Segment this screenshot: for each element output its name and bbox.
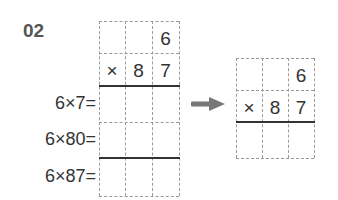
answer-cell[interactable] — [288, 122, 314, 158]
multiplier-tens-digit: 8 — [262, 90, 288, 122]
multiplicand-digit: 6 — [288, 58, 314, 90]
multiplier-ones-digit: 7 — [288, 90, 314, 122]
answer-cell[interactable] — [262, 122, 288, 158]
grid-line — [236, 158, 314, 159]
times-sign: × — [236, 90, 262, 122]
grid-cell — [262, 58, 288, 90]
right-multiplication-grid: 6 × 8 7 — [0, 0, 338, 200]
answer-cell[interactable] — [236, 122, 262, 158]
grid-line — [314, 58, 315, 158]
grid-cell — [236, 58, 262, 90]
